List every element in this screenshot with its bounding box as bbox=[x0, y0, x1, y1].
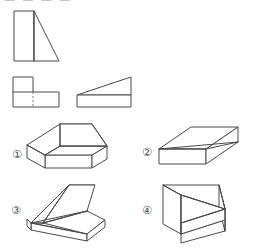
top-view-svg bbox=[12, 76, 64, 112]
choice-2-figure[interactable] bbox=[152, 118, 244, 176]
choice-1-figure[interactable] bbox=[22, 118, 112, 178]
choice-4-svg bbox=[154, 178, 246, 244]
cropped-header-strip: — — — — bbox=[0, 0, 253, 9]
choice-4-figure[interactable] bbox=[154, 178, 246, 244]
choice-2-front-face bbox=[159, 149, 206, 164]
side-view-figure bbox=[76, 76, 136, 112]
choice-3-ramp-left-end bbox=[27, 219, 31, 230]
choice-1-svg bbox=[22, 118, 112, 178]
front-view-triangle bbox=[34, 11, 59, 61]
top-view-figure bbox=[12, 76, 64, 112]
front-view-rectangle bbox=[14, 11, 34, 61]
side-view-wedge bbox=[77, 77, 131, 95]
side-view-base-rectangle bbox=[77, 95, 131, 107]
choice-4-label[interactable]: ④ bbox=[140, 204, 154, 218]
choice-1-block-front-face bbox=[45, 155, 92, 168]
choice-2-svg bbox=[152, 118, 244, 176]
side-view-svg bbox=[76, 76, 136, 112]
front-view-svg bbox=[13, 10, 65, 66]
cropped-header-text: — — — — bbox=[4, 0, 73, 6]
choice-3-label[interactable]: ③ bbox=[9, 204, 23, 218]
question-sheet: — — — — ① bbox=[0, 0, 253, 248]
choice-3-svg bbox=[24, 178, 116, 242]
front-view-figure bbox=[13, 10, 65, 66]
choice-3-figure[interactable] bbox=[24, 178, 116, 242]
